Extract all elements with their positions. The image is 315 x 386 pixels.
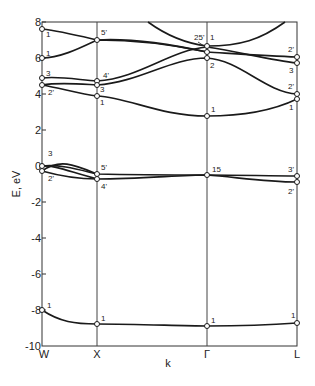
svg-text:2': 2': [288, 187, 294, 196]
svg-text:5': 5': [101, 163, 107, 172]
svg-text:2': 2': [288, 82, 294, 91]
band-5: [42, 85, 297, 116]
svg-text:2: 2: [210, 61, 215, 70]
ytick-neg4: -4: [31, 232, 41, 244]
svg-text:15: 15: [212, 165, 221, 174]
xtick-l: L: [294, 348, 300, 360]
ytick-4: 4: [35, 88, 41, 100]
ytick-2: 2: [35, 124, 41, 136]
xtick-w: W: [39, 348, 50, 360]
y-axis-label: E, eV: [10, 170, 22, 198]
svg-text:2': 2': [48, 174, 54, 183]
svg-text:1: 1: [291, 311, 296, 320]
svg-text:2': 2': [288, 45, 294, 54]
ytick-neg6: -6: [31, 268, 41, 280]
svg-text:3: 3: [100, 85, 105, 94]
band-1: [42, 310, 297, 326]
band-7: [42, 47, 297, 81]
x-axis-label: k: [165, 357, 171, 369]
svg-text:1: 1: [211, 105, 216, 114]
svg-text:3: 3: [46, 69, 51, 78]
svg-text:2': 2': [48, 88, 54, 97]
xtick-x: X: [93, 348, 101, 360]
band-curves: [42, 22, 297, 326]
svg-text:3: 3: [289, 66, 294, 75]
band-6: [42, 58, 297, 94]
svg-text:1: 1: [289, 103, 294, 112]
svg-text:1: 1: [47, 301, 52, 310]
band-2: [42, 171, 297, 182]
svg-text:4': 4': [101, 182, 107, 191]
plot-frame: [42, 22, 297, 346]
svg-text:3': 3': [288, 165, 294, 174]
svg-text:1: 1: [100, 98, 105, 107]
band-structure-chart: 8 6 4 2 0 -2 -4 -6 -8 -10 W X Γ L k E, e…: [0, 0, 315, 386]
y-tick-labels: 8 6 4 2 0 -2 -4 -6 -8 -10: [25, 16, 41, 352]
svg-text:25': 25': [194, 33, 205, 42]
svg-text:4': 4': [103, 71, 109, 80]
svg-text:1: 1: [101, 314, 106, 323]
ytick-8: 8: [35, 16, 41, 28]
svg-text:1: 1: [211, 316, 216, 325]
svg-text:1: 1: [210, 33, 215, 42]
svg-text:1: 1: [46, 30, 51, 39]
band-8: [42, 40, 297, 58]
band-11: [148, 22, 285, 46]
ytick-neg2: -2: [31, 196, 41, 208]
xtick-gamma: Γ: [204, 348, 210, 360]
svg-text:1: 1: [46, 49, 51, 58]
svg-text:3: 3: [48, 149, 53, 158]
svg-text:5': 5': [101, 28, 107, 37]
